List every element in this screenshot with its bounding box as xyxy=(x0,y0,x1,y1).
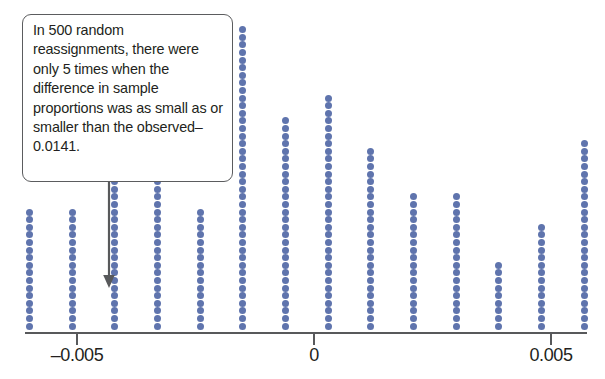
data-dot xyxy=(410,209,417,216)
data-dot xyxy=(197,277,204,284)
data-dot xyxy=(239,163,246,170)
data-dot xyxy=(367,254,374,261)
data-dot xyxy=(69,323,76,330)
data-dot xyxy=(282,231,289,238)
data-dot xyxy=(69,247,76,254)
data-dot xyxy=(69,254,76,261)
data-dot xyxy=(581,148,588,155)
data-dot xyxy=(154,300,161,307)
data-dot xyxy=(325,171,332,178)
data-dot xyxy=(282,193,289,200)
data-dot xyxy=(453,216,460,223)
data-dot xyxy=(453,201,460,208)
data-dot xyxy=(325,102,332,109)
data-dot xyxy=(367,224,374,231)
data-dot xyxy=(453,224,460,231)
data-dot xyxy=(325,209,332,216)
data-dot xyxy=(495,307,502,314)
data-dot xyxy=(282,323,289,330)
data-dot xyxy=(154,193,161,200)
data-dot xyxy=(197,323,204,330)
data-dot xyxy=(325,193,332,200)
data-dot xyxy=(69,239,76,246)
data-dot xyxy=(453,254,460,261)
data-dot xyxy=(111,300,118,307)
x-axis-tick xyxy=(76,334,78,345)
data-dot xyxy=(154,285,161,292)
x-axis-line xyxy=(25,332,587,334)
data-dot xyxy=(410,201,417,208)
data-dot xyxy=(367,285,374,292)
data-dot xyxy=(410,254,417,261)
data-dot xyxy=(154,292,161,299)
data-dot xyxy=(325,163,332,170)
data-dot xyxy=(367,171,374,178)
data-dot xyxy=(325,155,332,162)
data-dot xyxy=(239,110,246,117)
data-dot xyxy=(282,201,289,208)
data-dot xyxy=(282,163,289,170)
data-dot xyxy=(111,307,118,314)
data-dot xyxy=(282,178,289,185)
data-dot xyxy=(325,285,332,292)
data-dot xyxy=(239,277,246,284)
data-dot xyxy=(26,323,33,330)
data-dot xyxy=(367,148,374,155)
data-dot xyxy=(325,140,332,147)
data-dot xyxy=(538,254,545,261)
data-dot xyxy=(239,285,246,292)
data-dot xyxy=(453,239,460,246)
data-dot xyxy=(282,117,289,124)
data-dot xyxy=(325,300,332,307)
data-dot xyxy=(453,262,460,269)
data-dot xyxy=(367,247,374,254)
data-dot xyxy=(282,125,289,132)
data-dot xyxy=(410,269,417,276)
data-dot xyxy=(581,178,588,185)
data-dot xyxy=(239,26,246,33)
data-dot xyxy=(581,209,588,216)
data-dot xyxy=(367,193,374,200)
data-dot xyxy=(26,300,33,307)
x-axis-tick-label: 0.005 xyxy=(506,345,596,366)
data-dot xyxy=(154,224,161,231)
data-dot xyxy=(325,148,332,155)
data-dot xyxy=(26,209,33,216)
data-dot xyxy=(410,307,417,314)
data-dot xyxy=(453,292,460,299)
data-dot xyxy=(453,277,460,284)
data-dot xyxy=(239,323,246,330)
data-dot xyxy=(282,133,289,140)
data-dot xyxy=(239,72,246,79)
data-dot xyxy=(239,315,246,322)
data-dot xyxy=(581,193,588,200)
data-dot xyxy=(239,201,246,208)
data-dot xyxy=(282,224,289,231)
data-dot xyxy=(239,254,246,261)
data-dot xyxy=(26,254,33,261)
data-dot xyxy=(410,193,417,200)
data-dot xyxy=(410,231,417,238)
data-dot xyxy=(239,155,246,162)
data-dot xyxy=(239,133,246,140)
data-dot xyxy=(581,307,588,314)
data-dot xyxy=(581,155,588,162)
data-dot xyxy=(453,285,460,292)
data-dot xyxy=(410,277,417,284)
data-dot xyxy=(325,133,332,140)
data-dot xyxy=(410,315,417,322)
data-dot xyxy=(239,247,246,254)
data-dot xyxy=(197,269,204,276)
data-dot xyxy=(239,216,246,223)
data-dot xyxy=(581,231,588,238)
data-dot xyxy=(367,231,374,238)
data-dot xyxy=(538,231,545,238)
data-dot xyxy=(453,307,460,314)
data-dot xyxy=(26,285,33,292)
data-dot xyxy=(26,277,33,284)
data-dot xyxy=(282,254,289,261)
data-dot xyxy=(154,315,161,322)
data-dot xyxy=(69,285,76,292)
data-dot xyxy=(26,315,33,322)
data-dot xyxy=(325,323,332,330)
